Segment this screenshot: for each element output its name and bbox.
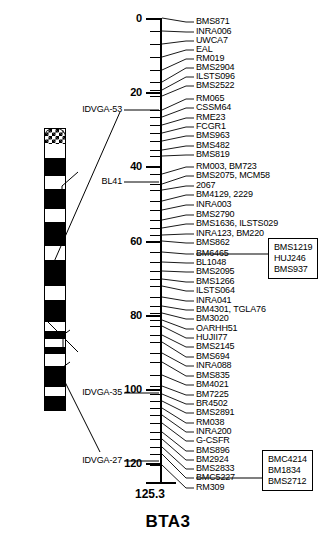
axis-tick-minor <box>150 184 161 185</box>
axis-tick-minor <box>150 439 161 440</box>
marker-label: BMS819 <box>196 150 230 159</box>
marker-label: BMS1636, ILSTS029 <box>196 219 278 228</box>
marker-connector <box>162 127 194 133</box>
axis-tick-major-40 <box>146 166 161 168</box>
marker-connector <box>162 320 194 329</box>
axis-tick-minor <box>150 141 161 142</box>
marker-label: BMS2522 <box>196 81 234 90</box>
axis-tick-minor <box>150 313 161 314</box>
left-marker-label: IDVGA-53 <box>72 105 122 114</box>
axis-tick-minor <box>150 401 161 402</box>
marker-label: INRA003 <box>196 200 231 209</box>
marker-label: BMS862 <box>196 238 230 247</box>
axis-tick-minor <box>150 210 161 211</box>
ideogram-band-light-5 <box>44 209 66 222</box>
axis-tick-minor <box>150 228 161 229</box>
axis-tick-minor <box>150 386 161 387</box>
axis-tick-minor <box>150 326 161 327</box>
marker-connector <box>162 18 194 22</box>
axis-tick-major-20 <box>146 92 161 94</box>
axis-tick-minor <box>150 201 161 202</box>
ideogram-band-dark-12 <box>44 331 66 339</box>
marker-connector <box>162 271 194 272</box>
marker-connector <box>162 279 194 282</box>
marker-connector <box>162 108 194 117</box>
map-axis-endcap <box>146 482 176 484</box>
marker-label: BMS963 <box>196 131 230 140</box>
ideogram-band-light-15 <box>44 354 66 366</box>
axis-tick-minor <box>150 110 161 111</box>
ideogram-band-dark-4 <box>44 189 66 209</box>
axis-label-100: 100 <box>100 383 142 395</box>
marker-connector <box>162 176 194 184</box>
marker-connector <box>162 335 194 347</box>
axis-tick-minor <box>150 286 161 287</box>
marker-connector <box>162 41 194 44</box>
marker-connector <box>162 59 194 70</box>
marker-connector <box>162 136 194 141</box>
marker-label: BM4021 <box>196 380 229 389</box>
marker-connector <box>162 186 194 190</box>
callout-marker-label: BM1834 <box>268 465 307 476</box>
marker-connector <box>162 454 194 478</box>
callout-marker-label: BMS1219 <box>274 242 312 253</box>
ideogram-band-dark-18 <box>44 396 66 411</box>
axis-tick-minor <box>150 362 161 363</box>
page-title: BTA3 <box>0 512 336 532</box>
axis-tick-minor <box>150 353 161 354</box>
axis-tick-minor <box>150 156 161 157</box>
axis-tick-minor <box>150 133 161 134</box>
axis-tick-minor <box>150 82 161 83</box>
callout-upper: BMS1219HUJ246BMS937 <box>268 238 318 279</box>
marker-connector <box>162 326 194 338</box>
axis-tick-minor <box>150 465 161 466</box>
axis-tick-minor <box>150 190 161 191</box>
ideogram-band-light-3 <box>44 176 66 189</box>
axis-tick-minor <box>150 96 161 97</box>
marker-label: BM3020 <box>196 314 229 323</box>
marker-connector <box>162 262 194 263</box>
axis-tick-minor <box>150 342 161 343</box>
marker-connector <box>162 195 194 201</box>
axis-tick-minor <box>150 447 161 448</box>
callout-lower: BMC4214BM1834BMS2712 <box>262 450 313 491</box>
axis-tick-minor <box>150 125 161 126</box>
marker-connector <box>162 167 194 174</box>
axis-tick-minor <box>150 262 161 263</box>
chromosome-ideogram <box>44 128 66 411</box>
axis-tick-minor <box>150 415 161 416</box>
marker-connector <box>162 118 194 125</box>
marker-connector <box>162 99 194 110</box>
marker-connector <box>162 146 194 150</box>
ideogram-band-checker-0 <box>44 128 66 144</box>
ideogram-band-dark-10 <box>44 300 66 322</box>
axis-tick-minor <box>150 117 161 118</box>
marker-connector <box>162 415 194 432</box>
axis-label-20: 20 <box>100 86 142 98</box>
marker-connector <box>162 401 194 413</box>
marker-label: BMS871 <box>196 17 230 26</box>
ideogram-band-light-9 <box>44 286 66 300</box>
marker-connector <box>162 408 194 423</box>
marker-connector <box>162 155 194 156</box>
ideogram-band-light-13 <box>44 339 66 347</box>
axis-tick-major-100 <box>146 389 161 391</box>
left-marker-label: BL41 <box>72 177 122 186</box>
marker-label: RM309 <box>196 483 224 492</box>
marker-connector <box>162 447 194 469</box>
marker-label: INRA088 <box>196 361 231 370</box>
axis-tick-minor <box>150 306 161 307</box>
callout-marker-label: BMS937 <box>274 264 312 275</box>
marker-connector <box>162 465 194 488</box>
callout-marker-label: HUJ246 <box>274 253 312 264</box>
marker-label: G-CSFR <box>196 436 230 445</box>
marker-label: BMC5227 <box>196 473 235 482</box>
axis-tick-minor <box>150 271 161 272</box>
map-axis-line <box>160 18 162 483</box>
axis-label-80: 80 <box>100 309 142 321</box>
axis-tick-minor <box>150 220 161 221</box>
marker-connector <box>162 423 194 441</box>
marker-connector <box>162 77 194 90</box>
axis-tick-minor <box>150 375 161 376</box>
ideogram-band-light-7 <box>44 246 66 260</box>
